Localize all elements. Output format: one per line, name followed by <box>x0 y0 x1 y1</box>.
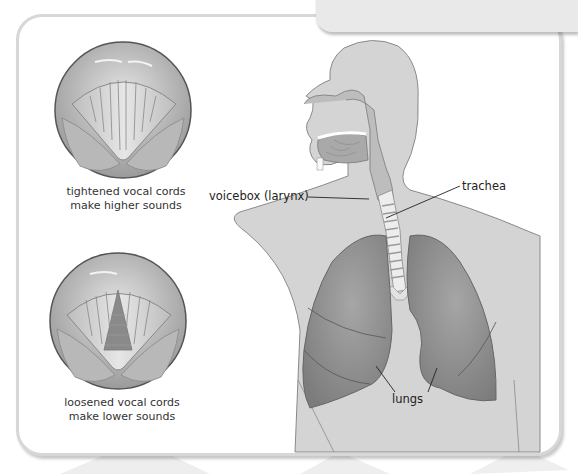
tightened-caption-line2: make higher sounds <box>46 199 206 213</box>
lungs-label: lungs <box>392 392 423 406</box>
tightened-vocal-cords-image <box>55 42 191 178</box>
voicebox-label: voicebox (larynx) <box>209 189 309 203</box>
tightened-caption: tightened vocal cords make higher sounds <box>46 185 206 213</box>
loosened-vocal-cords-image <box>50 253 186 389</box>
trachea-label: trachea <box>462 179 506 193</box>
loosened-caption-line1: loosened vocal cords <box>42 396 202 410</box>
loosened-caption: loosened vocal cords make lower sounds <box>42 396 202 424</box>
loosened-caption-line2: make lower sounds <box>42 410 202 424</box>
tightened-caption-line1: tightened vocal cords <box>46 185 206 199</box>
